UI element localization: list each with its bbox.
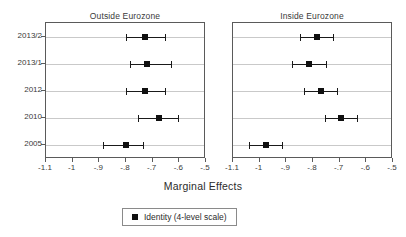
plot-panel-inside-eurozone [232, 22, 392, 158]
confidence-interval-bar [130, 64, 171, 65]
ci-cap-lower [300, 34, 301, 41]
data-point-marker [142, 88, 148, 94]
ci-cap-lower [126, 34, 127, 41]
x-axis-tick-label: -.8 [120, 163, 129, 172]
x-axis-tick [45, 158, 46, 162]
data-point-marker [318, 88, 324, 94]
data-point-marker [338, 115, 344, 121]
ci-cap-upper [165, 34, 166, 41]
x-axis-tick [125, 158, 126, 162]
data-point-marker [314, 34, 320, 40]
legend: Identity (4-level scale) [122, 208, 237, 226]
ci-cap-upper [171, 61, 172, 68]
x-axis-tick [152, 158, 153, 162]
ci-cap-lower [292, 61, 293, 68]
x-axis-tick [339, 158, 340, 162]
gridline [46, 37, 204, 38]
x-axis-tick-label: -.9 [94, 163, 103, 172]
ci-cap-lower [103, 142, 104, 149]
data-point-marker [306, 61, 312, 67]
x-axis-tick [205, 158, 206, 162]
y-axis-labels: 2013/22013/1201220102005 [0, 22, 45, 158]
ci-cap-lower [325, 115, 326, 122]
ci-cap-lower [130, 61, 131, 68]
ci-cap-upper [165, 88, 166, 95]
ci-cap-lower [138, 115, 139, 122]
x-axis-inside-eurozone: -1.1-1-.9-.8-.7-.6-.5 [232, 158, 392, 178]
data-point-marker [123, 142, 129, 148]
x-axis-tick [365, 158, 366, 162]
ci-cap-lower [249, 142, 250, 149]
gridline [46, 91, 204, 92]
ci-cap-upper [143, 142, 144, 149]
x-axis-tick [312, 158, 313, 162]
x-axis-tick-label: -.5 [387, 163, 396, 172]
x-axis-tick [259, 158, 260, 162]
ci-cap-lower [126, 88, 127, 95]
x-axis-tick-label: -.6 [174, 163, 183, 172]
x-axis-tick [178, 158, 179, 162]
legend-label: Identity (4-level scale) [144, 212, 227, 222]
ci-cap-upper [337, 88, 338, 95]
data-point-marker [142, 34, 148, 40]
gridline [46, 64, 204, 65]
x-axis-tick-label: -.6 [361, 163, 370, 172]
data-point-marker [156, 115, 162, 121]
x-axis-tick [392, 158, 393, 162]
x-axis-title: Marginal Effects [0, 180, 406, 192]
x-axis-tick [285, 158, 286, 162]
x-axis-tick-label: -1.1 [225, 163, 239, 172]
ci-cap-upper [282, 142, 283, 149]
plot-area-outside-eurozone [46, 23, 204, 157]
ci-cap-upper [357, 115, 358, 122]
x-axis-tick [232, 158, 233, 162]
panel-title-outside-eurozone: Outside Eurozone [45, 11, 205, 21]
panel-title-inside-eurozone: Inside Eurozone [232, 11, 392, 21]
data-point-marker [144, 61, 150, 67]
data-point-marker [263, 142, 269, 148]
x-axis-tick-label: -1 [68, 163, 75, 172]
x-axis-tick-label: -.8 [307, 163, 316, 172]
plot-panel-outside-eurozone [45, 22, 205, 158]
x-axis-tick-label: -1 [255, 163, 262, 172]
x-axis-tick-label: -.7 [334, 163, 343, 172]
gridline [233, 118, 391, 119]
plot-area-inside-eurozone [233, 23, 391, 157]
ci-cap-upper [178, 115, 179, 122]
marginal-effects-chart: Outside Eurozone Inside Eurozone 2013/22… [0, 0, 406, 237]
x-axis-tick-label: -.5 [200, 163, 209, 172]
x-axis-tick-label: -.7 [147, 163, 156, 172]
legend-marker-icon [132, 214, 138, 220]
gridline [46, 118, 204, 119]
ci-cap-upper [326, 61, 327, 68]
ci-cap-upper [333, 34, 334, 41]
x-axis-tick [72, 158, 73, 162]
x-axis-outside-eurozone: -1.1-1-.9-.8-.7-.6-.5 [45, 158, 205, 178]
x-axis-tick-label: -.9 [281, 163, 290, 172]
x-axis-tick [98, 158, 99, 162]
x-axis-tick-label: -1.1 [38, 163, 52, 172]
ci-cap-lower [304, 88, 305, 95]
